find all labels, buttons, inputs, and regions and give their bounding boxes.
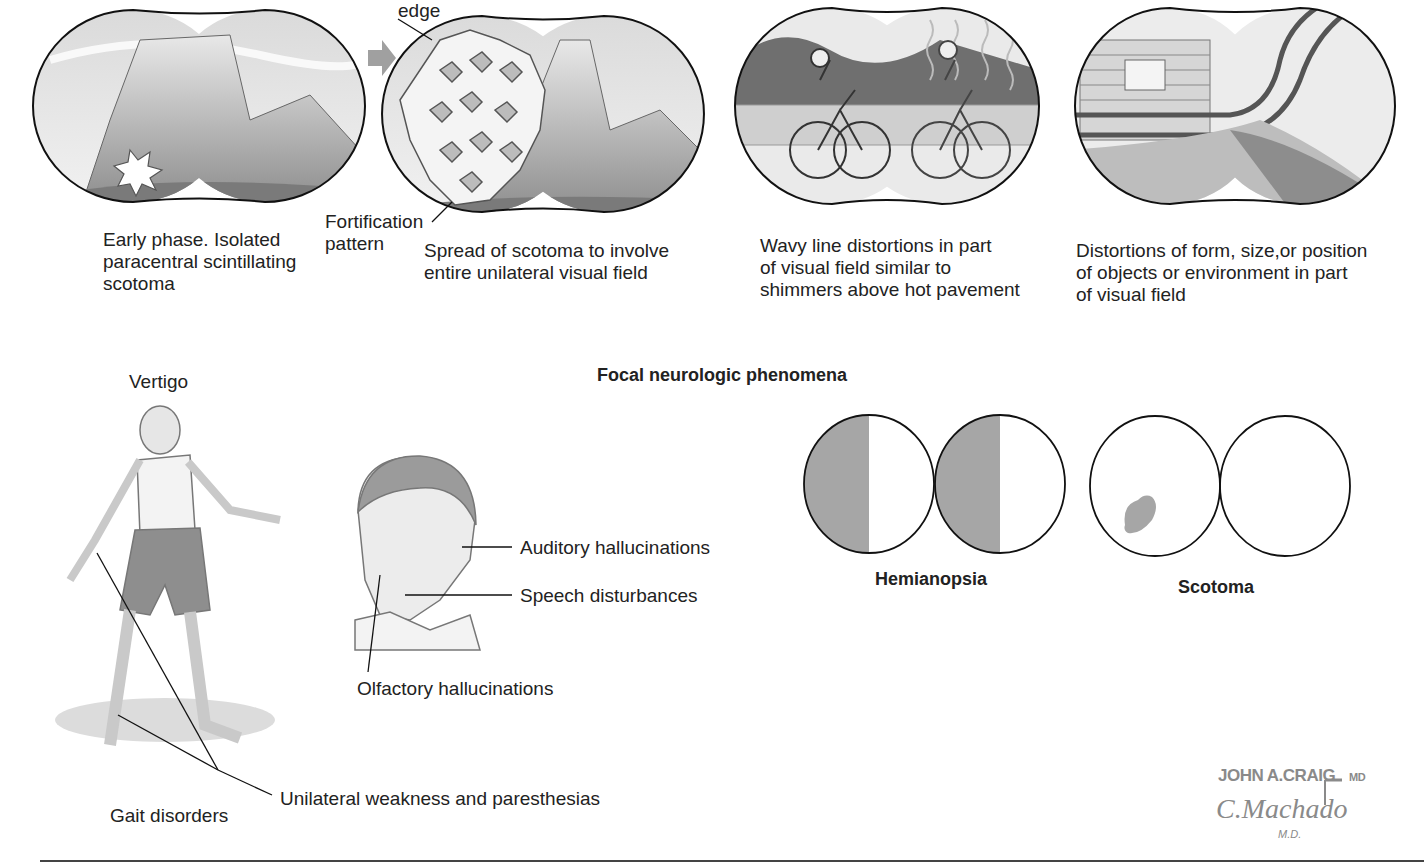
signature-craig: JOHN A.CRAIGMD xyxy=(1218,766,1365,786)
label-speech-disturbances: Speech disturbances xyxy=(520,585,697,607)
caption-spread: Spread of scotoma to involve entire unil… xyxy=(424,240,669,284)
panel-wavy-image xyxy=(730,0,1050,210)
scotoma-diagram xyxy=(1090,416,1350,556)
label-hemianopsia: Hemianopsia xyxy=(875,568,987,590)
signature-machado: C.Machado xyxy=(1216,793,1347,825)
caption-distortions: Distortions of form, size,or position of… xyxy=(1076,240,1367,306)
label-edge: edge xyxy=(398,0,440,22)
illustration-canvas xyxy=(0,0,1424,867)
label-gait-disorders: Gait disorders xyxy=(110,805,228,827)
panel-early-phase-image xyxy=(30,0,370,210)
label-vertigo: Vertigo xyxy=(129,371,188,393)
caption-early-phase: Early phase. Isolated paracentral scinti… xyxy=(103,229,296,295)
caption-wavy: Wavy line distortions in part of visual … xyxy=(760,235,1020,301)
standing-figure-illustration xyxy=(55,406,280,745)
section-title: Focal neurologic phenomena xyxy=(597,364,847,386)
panel-spread-image xyxy=(380,0,710,222)
label-fortification-pattern: Fortification pattern xyxy=(325,211,423,255)
label-unilateral-weakness: Unilateral weakness and paresthesias xyxy=(280,788,600,810)
signature-md: M.D. xyxy=(1278,828,1301,840)
panel-distortions-image xyxy=(1070,0,1400,210)
scotoma-spot xyxy=(1124,496,1156,534)
hemianopsia-diagram xyxy=(800,410,1065,560)
label-olfactory-hallucinations: Olfactory hallucinations xyxy=(357,678,553,700)
label-auditory-hallucinations: Auditory hallucinations xyxy=(520,537,710,559)
label-scotoma: Scotoma xyxy=(1178,576,1254,598)
